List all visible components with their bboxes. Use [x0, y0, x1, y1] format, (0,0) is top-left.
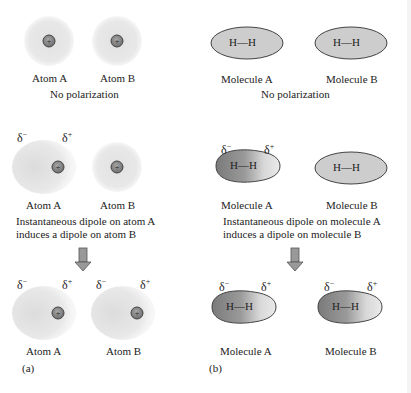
atom-b-label: Atom B	[100, 199, 135, 211]
bond-label: H—H	[226, 300, 253, 312]
bond-label: H—H	[230, 159, 257, 171]
atom-b-label: Atom B	[100, 72, 135, 84]
atom-b-unpolarized: +	[92, 16, 142, 66]
down-arrow-a	[75, 248, 91, 271]
svg-text:+: +	[115, 163, 120, 172]
atom-a-label: Atom A	[32, 72, 67, 84]
molecule-a-label: Molecule A	[220, 345, 272, 357]
svg-text:+: +	[47, 37, 52, 46]
atom-a-label: Atom A	[26, 199, 61, 211]
caption-dipole-line1: Instantaneous dipole on atom A	[16, 215, 155, 227]
atom-a-dipole: +	[12, 140, 76, 194]
molecule-a-label: Molecule A	[221, 199, 273, 211]
delta-plus: δ+	[261, 279, 271, 295]
delta-plus: δ+	[62, 130, 72, 146]
page-edge	[407, 0, 411, 393]
atom-b-induced: +	[91, 286, 155, 340]
bond-label: H—H	[229, 36, 256, 48]
atom-a-induced: +	[12, 286, 76, 340]
molecule-b-label: Molecule B	[326, 73, 378, 85]
bond-label: H—H	[333, 161, 360, 173]
delta-minus: δ−	[324, 279, 334, 295]
svg-text:+: +	[135, 309, 140, 318]
panel-b-label: (b)	[209, 362, 222, 374]
panel-a-label: (a)	[22, 362, 34, 374]
molecule-a-label: Molecule A	[221, 73, 273, 85]
delta-plus: δ+	[62, 277, 72, 293]
caption-dipole-line2: induces a dipole on atom B	[16, 228, 136, 240]
atom-b-row2: +	[92, 142, 142, 192]
svg-text:+: +	[56, 163, 61, 172]
caption-no-polarization: No polarization	[261, 88, 330, 100]
delta-plus: δ+	[367, 279, 377, 295]
down-arrow-b	[287, 248, 303, 271]
delta-minus: δ−	[96, 277, 106, 293]
delta-plus: δ+	[264, 142, 274, 158]
diagram-graphics: + + + + +	[0, 0, 411, 393]
bond-label: H—H	[332, 300, 359, 312]
molecule-b-label: Molecule B	[326, 199, 378, 211]
caption-dipole-line1: Instantaneous dipole on molecule A	[223, 215, 381, 227]
delta-plus: δ+	[140, 277, 150, 293]
atom-a-unpolarized: +	[24, 16, 74, 66]
delta-minus: δ−	[219, 279, 229, 295]
caption-no-polarization: No polarization	[50, 88, 119, 100]
svg-text:+: +	[115, 37, 120, 46]
bond-label: H—H	[333, 36, 360, 48]
delta-minus: δ−	[17, 130, 27, 146]
molecule-b-label: Molecule B	[325, 345, 377, 357]
svg-text:+: +	[56, 309, 61, 318]
caption-dipole-line2: induces a dipole on molecule B	[223, 228, 361, 240]
delta-minus: δ−	[17, 277, 27, 293]
delta-minus: δ−	[221, 142, 231, 158]
atom-b-label: Atom B	[106, 345, 141, 357]
atom-a-label: Atom A	[26, 345, 61, 357]
